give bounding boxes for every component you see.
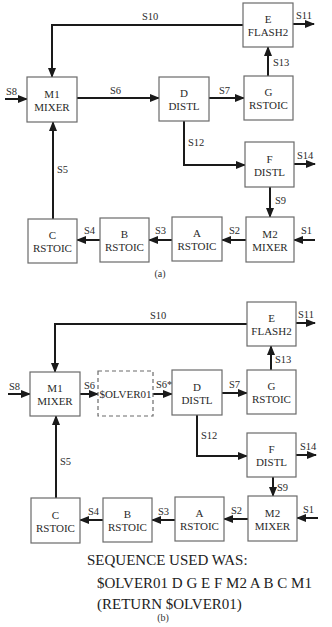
block-b: BRSTOIC — [100, 218, 149, 262]
stream-label: S3 — [158, 506, 169, 517]
block-id-label: M2 — [265, 507, 280, 519]
block-box — [246, 217, 294, 262]
stream-s4: S4 — [80, 506, 103, 520]
stream-label: S7 — [219, 85, 230, 96]
block-id-label: M1 — [44, 88, 59, 100]
stream-label: S13 — [275, 354, 291, 365]
block-box — [27, 77, 77, 122]
block-type-label: RSTOIC — [108, 521, 147, 533]
block-id-label: G — [268, 380, 276, 392]
stream-label: S7 — [229, 379, 240, 390]
stream-s6: S6 — [80, 380, 98, 394]
block-box — [159, 77, 209, 121]
block-id-label: B — [121, 228, 128, 240]
block-box — [243, 3, 293, 47]
block-f: FDISTL — [245, 142, 294, 187]
flowsheet-a: S8S6S7S13S11S10S12S14S9S1S2S3S4S5M1MIXER… — [5, 3, 315, 280]
block-type-label: MIXER — [37, 395, 73, 407]
stream-label: S4 — [84, 225, 96, 236]
block-id-label: A — [196, 507, 204, 519]
sequence-heading: SEQUENCE USED WAS: — [87, 552, 248, 568]
block-g: GRSTOIC — [247, 370, 296, 414]
block-m1: M1MIXER — [27, 77, 77, 122]
stream-label: S9 — [277, 482, 288, 493]
block-id-label: $OLVER01 — [99, 388, 151, 400]
stream-s8: S8 — [5, 86, 27, 99]
block-f: FDISTL — [247, 433, 296, 477]
stream-s11: S11 — [293, 10, 314, 24]
stream-label: S10 — [150, 310, 166, 321]
block-id-label: D — [180, 87, 188, 99]
stream-s13: S13 — [271, 346, 291, 370]
stream-label: S8 — [6, 86, 17, 97]
stream-label: S8 — [9, 381, 20, 392]
stream-s10: S10 — [52, 11, 243, 77]
block-id-label: A — [193, 227, 201, 239]
block-id-label: B — [124, 508, 131, 520]
block-box — [103, 498, 152, 542]
block-type-label: FLASH2 — [248, 26, 288, 38]
stream-s8: S8 — [8, 381, 30, 394]
block-box — [172, 217, 222, 261]
stream-label: S2 — [229, 225, 240, 236]
block-solver: $OLVER01 — [98, 371, 153, 416]
stream-label: S6 — [110, 85, 121, 96]
block-box — [247, 433, 296, 477]
block-id-label: M2 — [262, 228, 277, 240]
sequence-note: SEQUENCE USED WAS: $OLVER01 D G E F M2 A… — [87, 552, 312, 613]
block-box — [172, 370, 222, 415]
block-b: BRSTOIC — [103, 498, 152, 542]
stream-label: S9 — [275, 195, 286, 206]
block-box — [247, 370, 296, 414]
stream-label: S2 — [231, 505, 242, 516]
stream-s1: S1 — [297, 504, 318, 518]
block-id-label: E — [265, 13, 272, 25]
stream-label: S10 — [142, 11, 158, 22]
stream-s10: S10 — [55, 310, 247, 372]
stream-s11: S11 — [296, 309, 315, 323]
stream-s6: S6 — [77, 85, 159, 98]
stream-label: S12 — [188, 137, 204, 148]
block-box — [247, 302, 296, 346]
stream-s5: S5 — [56, 416, 71, 498]
stream-s7: S7 — [222, 379, 247, 393]
block-box — [28, 219, 77, 263]
stream-label: S3 — [155, 225, 166, 236]
block-id-label: F — [266, 153, 272, 165]
block-type-label: RSTOIC — [33, 242, 72, 254]
flowsheet-canvas: S8S6S7S13S11S10S12S14S9S1S2S3S4S5M1MIXER… — [0, 0, 332, 627]
stream-label: S1 — [301, 225, 312, 236]
stream-label: S6 — [84, 380, 95, 391]
stream-s2: S2 — [222, 225, 246, 240]
stream-s7: S7 — [209, 85, 244, 98]
block-c: CRSTOIC — [31, 498, 80, 543]
block-box — [30, 372, 80, 416]
block-id-label: C — [52, 509, 59, 521]
block-type-label: RSTOIC — [180, 520, 219, 532]
stream-s9: S9 — [273, 477, 288, 496]
stream-arrow — [52, 25, 243, 77]
block-g: GRSTOIC — [244, 76, 293, 120]
block-e: EFLASH2 — [243, 3, 293, 47]
block-m1: M1MIXER — [30, 372, 80, 416]
stream-label: S4 — [88, 506, 100, 517]
block-a: ARSTOIC — [175, 497, 224, 541]
block-type-label: RSTOIC — [105, 241, 144, 253]
stream-s4: S4 — [77, 225, 100, 240]
block-m2: M2MIXER — [246, 217, 294, 262]
stream-label: S1 — [303, 504, 314, 515]
block-id-label: D — [193, 381, 201, 393]
block-box — [245, 142, 294, 187]
block-id-label: G — [265, 86, 273, 98]
block-box — [31, 498, 80, 543]
stream-label: S6* — [156, 379, 172, 390]
block-type-label: MIXER — [252, 241, 288, 253]
block-a: ARSTOIC — [172, 217, 222, 261]
stream-s9: S9 — [270, 187, 286, 217]
stream-s2: S2 — [224, 505, 248, 519]
stream-s6-star: S6* — [153, 379, 172, 394]
stream-s1: S1 — [294, 225, 315, 240]
stream-label: S11 — [296, 10, 312, 21]
stream-s13: S13 — [268, 47, 289, 76]
block-type-label: DISTL — [168, 100, 199, 112]
